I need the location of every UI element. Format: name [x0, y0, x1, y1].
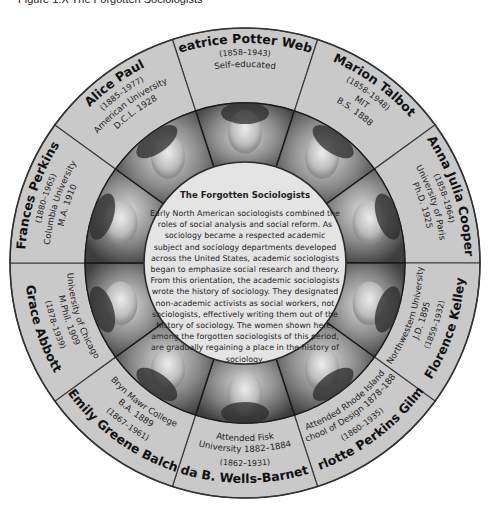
life-years: (1862–1931): [219, 457, 270, 468]
hair-shape: [221, 402, 269, 424]
life-years: (1858–1943): [219, 48, 272, 59]
center-title: The Forgotten Sociologists: [148, 190, 342, 200]
center-panel: The Forgotten Sociologists Early North A…: [148, 168, 342, 358]
hair-shape: [221, 102, 269, 124]
center-body: Early North American sociologists combin…: [148, 208, 342, 365]
